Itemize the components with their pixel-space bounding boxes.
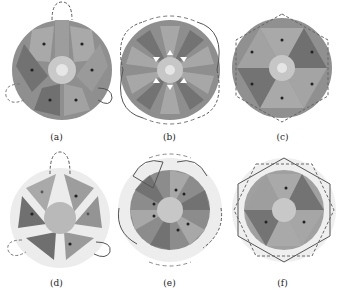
panel-label-d: (d) — [0, 278, 113, 288]
panel-e: (e) — [113, 148, 226, 296]
panel-label-b: (b) — [113, 132, 226, 142]
machine-diagram-e — [113, 148, 226, 278]
machine-diagram-c — [226, 0, 339, 130]
machine-diagram-f — [226, 148, 339, 278]
panel-c: (c) — [226, 0, 339, 148]
panel-label-e: (e) — [113, 278, 226, 288]
panel-f: (f) — [226, 148, 339, 296]
panel-d: (d) — [0, 148, 113, 296]
panel-label-f: (f) — [226, 278, 339, 288]
panel-a: (a) — [0, 0, 113, 148]
machine-diagram-b — [113, 0, 226, 130]
machine-diagram-a — [0, 0, 113, 130]
panel-label-a: (a) — [0, 132, 113, 142]
machine-diagram-d — [0, 148, 113, 278]
panel-label-c: (c) — [226, 132, 339, 142]
panel-b: (b) — [113, 0, 226, 148]
